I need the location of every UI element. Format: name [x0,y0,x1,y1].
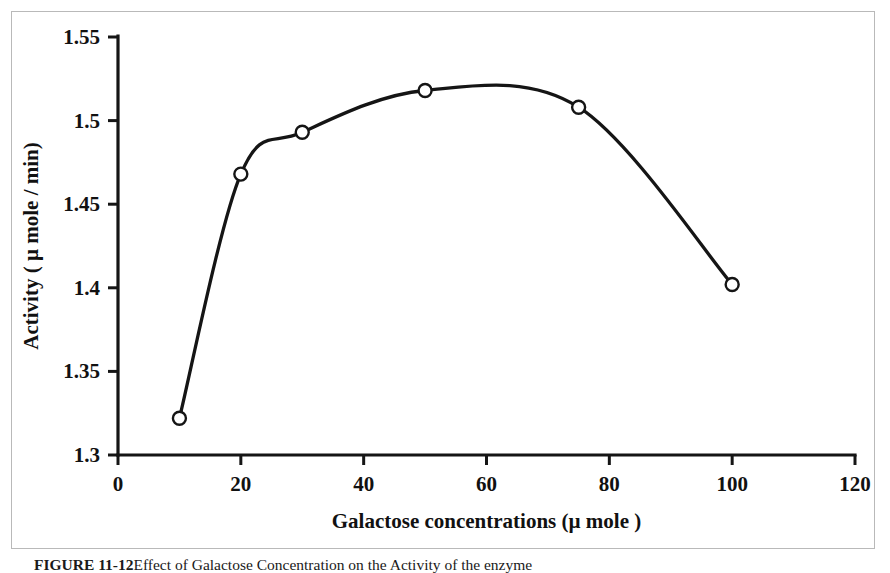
data-point-marker [419,84,432,97]
y-tick-label: 1.45 [63,192,100,216]
activity-curve [179,85,732,418]
line-chart: 1.31.351.41.451.51.55 020406080100120 Ga… [0,0,890,573]
figure-root: 1.31.351.41.451.51.55 020406080100120 Ga… [0,0,890,573]
data-point-markers [173,84,739,425]
y-axis-title: Activity ( µ mole / min) [19,142,43,349]
x-tick-label: 40 [353,472,374,496]
data-point-marker [173,412,186,425]
x-tick-label: 20 [230,472,251,496]
chart-area: 1.31.351.41.451.51.55 020406080100120 Ga… [0,0,890,573]
x-tick-label: 0 [113,472,124,496]
data-point-marker [726,278,739,291]
y-tick-label: 1.4 [74,276,101,300]
figure-caption-text: Effect of Galactose Concentration on the… [133,556,532,573]
figure-caption-label: FIGURE 11-12 [34,556,133,573]
x-tick-label: 80 [599,472,620,496]
y-tick-label: 1.35 [63,359,100,383]
x-tick-label: 100 [716,472,748,496]
data-point-marker [572,101,585,114]
y-axis-tick-labels: 1.31.351.41.451.51.55 [63,25,100,467]
y-tick-label: 1.55 [63,25,100,49]
y-tick-label: 1.5 [74,109,100,133]
x-axis-title: Galactose concentrations (µ mole ) [332,509,642,533]
x-axis-tick-labels: 020406080100120 [113,472,871,496]
figure-caption: FIGURE 11-12Effect of Galactose Concentr… [34,556,874,573]
data-point-marker [296,126,309,139]
x-tick-label: 120 [839,472,871,496]
y-tick-label: 1.3 [74,443,100,467]
x-tick-label: 60 [476,472,497,496]
data-point-marker [234,168,247,181]
